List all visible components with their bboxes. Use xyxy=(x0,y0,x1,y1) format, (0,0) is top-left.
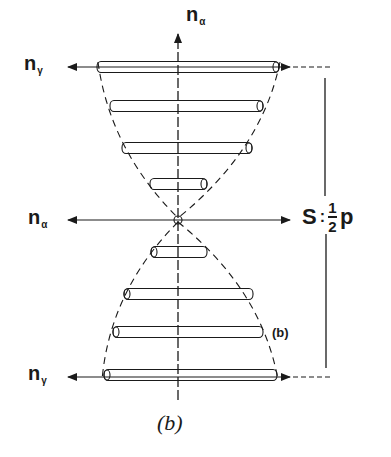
label-subscript: γ xyxy=(41,375,47,386)
pitch-fraction: 1 2 xyxy=(328,200,337,234)
molecular-rods xyxy=(97,62,279,381)
rod-end-cap xyxy=(113,327,119,337)
label-base: n xyxy=(186,3,198,25)
molecular-rod xyxy=(104,370,277,381)
molecular-rod xyxy=(113,327,263,338)
n-gamma-top-label: nγ xyxy=(24,52,43,75)
n-gamma-bottom-label: nγ xyxy=(28,362,47,385)
label-subscript: α xyxy=(41,219,47,230)
label-base: n xyxy=(28,362,40,384)
pitch-equation: S : 1 2 p xyxy=(302,200,353,234)
molecular-rod xyxy=(124,289,253,300)
rod-end-cap xyxy=(257,101,263,111)
label-subscript: γ xyxy=(37,65,43,76)
n-alpha-top-label: nα xyxy=(186,3,205,26)
molecular-rod xyxy=(122,143,252,154)
pitch-symbol: S xyxy=(302,204,317,230)
molecular-rod xyxy=(151,247,207,258)
pitch-equals: : xyxy=(320,208,325,226)
director-envelope xyxy=(98,62,280,380)
fraction-denominator: 2 xyxy=(328,219,336,234)
label-subscript: α xyxy=(199,16,205,27)
label-base: n xyxy=(28,206,40,228)
fraction-numerator: 1 xyxy=(328,200,336,215)
molecular-rod xyxy=(110,101,263,112)
inner-b-label: (b) xyxy=(272,325,289,340)
rod-end-cap xyxy=(246,143,252,153)
label-base: n xyxy=(24,52,36,74)
rod-end-cap xyxy=(104,370,110,380)
pitch-variable: p xyxy=(340,204,353,230)
figure-caption: (b) xyxy=(157,410,183,436)
n-alpha-left-label: nα xyxy=(28,206,47,229)
rod-end-cap xyxy=(201,179,207,189)
